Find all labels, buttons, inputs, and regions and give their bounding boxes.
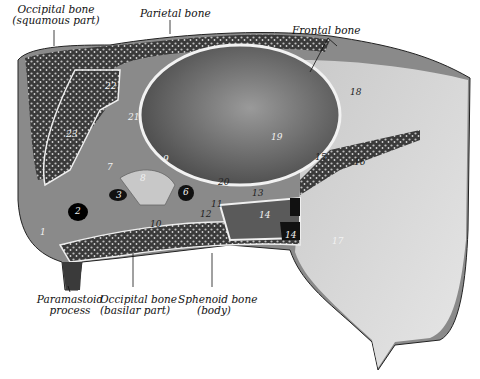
callout-8: 8	[140, 174, 146, 183]
callout-21: 21	[128, 113, 139, 122]
label-paramastoid-process: Paramastoid process	[30, 294, 110, 316]
label-line: Frontal bone	[292, 25, 361, 36]
sphenoid-septum	[290, 198, 300, 216]
label-line: (squamous part)	[10, 15, 102, 26]
callout-7: 7	[107, 163, 113, 172]
label-occipital-basilar: Occipital bone (basilar part)	[100, 294, 170, 316]
skull-section-figure: Occipital bone (squamous part) Parietal …	[0, 0, 480, 379]
callout-10: 10	[150, 220, 161, 229]
skull-illustration	[0, 0, 480, 379]
label-line: (body)	[178, 305, 250, 316]
callout-18: 18	[350, 88, 361, 97]
callout-13: 13	[252, 189, 263, 198]
callout-22: 22	[105, 82, 116, 91]
label-line: Parietal bone	[140, 8, 211, 19]
label-line: process	[30, 305, 110, 316]
callout-14-upper: 14	[259, 211, 270, 220]
callout-2: 2	[75, 207, 81, 216]
cranial-cavity	[140, 45, 340, 185]
label-occipital-squamous: Occipital bone (squamous part)	[10, 4, 102, 26]
label-parietal-bone: Parietal bone	[140, 8, 211, 19]
label-sphenoid-body: Sphenoid bone (body)	[178, 294, 250, 316]
label-line: (basilar part)	[100, 305, 170, 316]
callout-23: 23	[66, 130, 77, 139]
callout-14-lower: 14	[285, 231, 296, 240]
callout-15: 15	[315, 153, 326, 162]
callout-3: 3	[116, 191, 122, 200]
callout-12: 12	[200, 210, 211, 219]
callout-17: 17	[332, 237, 343, 246]
callout-6: 6	[183, 188, 189, 197]
label-frontal-bone: Frontal bone	[292, 25, 361, 36]
callout-20: 20	[218, 178, 229, 187]
callout-9: 9	[163, 155, 169, 164]
callout-11: 11	[211, 200, 222, 209]
callout-19: 19	[271, 133, 282, 142]
callout-16: 16	[354, 158, 365, 167]
callout-1: 1	[40, 228, 46, 237]
